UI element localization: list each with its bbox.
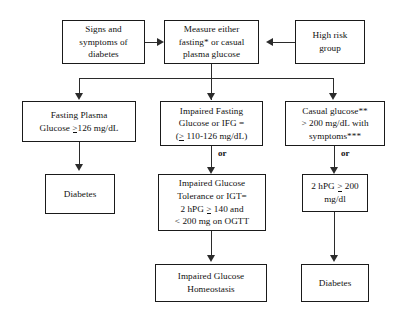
node-line: group (319, 42, 341, 55)
greater-or-equal-symbol: > (179, 130, 184, 143)
or-label-right: or (341, 148, 350, 158)
arrow-signs-to-measure (157, 38, 164, 46)
arrow-ifg-to-igt (207, 167, 215, 174)
node-line: Glucose or IFG = (179, 117, 244, 130)
node-line: Signs and (85, 23, 121, 36)
node-line: Homeostasis (187, 283, 235, 296)
node-line: mg/dl (324, 193, 346, 206)
connector-signs-to-measure (145, 42, 157, 43)
node-diabetes-left: Diabetes (45, 174, 115, 214)
node-line: plasma glucose (183, 48, 240, 61)
greater-or-equal-symbol: > (206, 203, 211, 216)
node-line: Glucose >126 mg/dL (39, 122, 118, 135)
node-diabetes-right: Diabetes (301, 264, 369, 302)
arrow-fasting-to-diabetes (75, 164, 83, 171)
node-line: diabetes (88, 48, 119, 61)
node-line: Measure either (184, 23, 240, 36)
connector-ifg-to-igt (211, 146, 212, 169)
arrow-to-fasting-plasma (75, 93, 83, 100)
arrow-to-impaired-fasting (207, 93, 215, 100)
node-line: fasting* or casual (179, 36, 245, 49)
arrow-to-casual-glucose (329, 93, 337, 100)
connector-igt-to-homeostasis (211, 231, 212, 257)
node-line: (> 110-126 mg/dL) (176, 130, 248, 143)
arrow-casual-to-twohpg (330, 167, 338, 174)
node-line: Diabetes (64, 188, 97, 201)
node-high-risk-group: High risk group (295, 20, 365, 64)
connector-highrisk-to-measure (273, 42, 295, 43)
node-line: 2 hPG > 140 and (180, 203, 243, 216)
node-line: Fasting Plasma (51, 109, 108, 122)
arrow-highrisk-to-measure (266, 38, 273, 46)
greater-or-equal-symbol: > (337, 180, 342, 193)
node-impaired-glucose-homeostasis: Impaired Glucose Homeostasis (155, 264, 267, 302)
node-casual-glucose: Casual glucose** > 200 mg/dL with sympto… (285, 101, 385, 146)
node-line: Impaired Glucose (178, 270, 244, 283)
node-measure-glucose: Measure either fasting* or casual plasma… (164, 20, 259, 64)
connector-split-bus (79, 78, 333, 79)
arrow-igt-to-homeostasis (207, 255, 215, 262)
connector-split-right (333, 78, 334, 93)
node-signs-symptoms: Signs and symptoms of diabetes (62, 20, 145, 64)
node-line: Diabetes (319, 277, 352, 290)
node-line: 2 hPG > 200 (311, 180, 358, 193)
flowchart-diagram: Signs and symptoms of diabetes Measure e… (0, 0, 402, 311)
node-line: Impaired Glucose (179, 177, 245, 190)
arrow-twohpg-to-diabetes (330, 255, 338, 262)
node-line: Casual glucose** (302, 105, 367, 118)
connector-twohpg-to-diabetes (334, 212, 335, 257)
node-fasting-plasma: Fasting Plasma Glucose >126 mg/dL (22, 101, 136, 142)
connector-fasting-to-diabetes (79, 142, 80, 166)
node-line: > 200 mg/dL with (301, 117, 368, 130)
node-impaired-fasting-glucose: Impaired Fasting Glucose or IFG = (> 110… (160, 101, 263, 146)
node-impaired-glucose-tolerance: Impaired Glucose Tolerance or IGT= 2 hPG… (158, 174, 266, 231)
connector-split-left (79, 78, 80, 93)
node-line: Tolerance or IGT= (177, 190, 247, 203)
node-line: Impaired Fasting (180, 105, 243, 118)
node-two-hpg: 2 hPG > 200 mg/dl (302, 174, 368, 212)
node-line: symptoms of (79, 36, 127, 49)
node-line: < 200 mg on OGTT (175, 215, 249, 228)
node-line: symptoms*** (309, 130, 361, 143)
greater-or-equal-symbol: > (72, 122, 77, 135)
connector-casual-to-twohpg (334, 146, 335, 169)
or-label-middle: or (218, 148, 227, 158)
node-line: High risk (313, 29, 348, 42)
